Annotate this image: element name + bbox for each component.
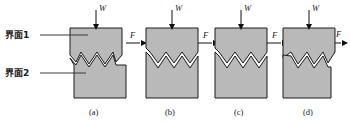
panel-d-lower-block: [283, 55, 331, 98]
panel-a-force-arrow: [126, 40, 147, 46]
panel-c-caption: (c): [234, 107, 244, 117]
panel-c-load-label: W: [244, 3, 252, 13]
panel-d: W F (d): [283, 3, 348, 117]
panel-c: W F (c): [215, 3, 288, 117]
panel-a-load-arrow: [93, 10, 99, 30]
panel-b-load-arrow: [169, 10, 175, 30]
panel-b-upper-block: [146, 28, 198, 63]
panel-a-lower-block: [70, 55, 126, 98]
panel-a: W F (a): [70, 3, 147, 117]
panel-a-force-label: F: [129, 30, 136, 40]
panel-d-caption: (d): [303, 107, 313, 117]
panel-d-load-arrow: [306, 10, 312, 30]
panel-b: W F (b): [146, 3, 219, 117]
panel-d-load-label: W: [312, 3, 320, 13]
panel-d-force-arrow: [335, 40, 348, 46]
panel-d-force-label: F: [335, 29, 342, 39]
panel-c-force-label: F: [271, 30, 278, 40]
panel-a-caption: (a): [89, 107, 99, 117]
panel-b-load-label: W: [175, 3, 183, 13]
interface-1-label: 界面1: [5, 30, 29, 40]
panel-b-caption: (b): [165, 107, 175, 117]
interface-shear-figure: W F (a) W F (b) W: [0, 0, 350, 124]
panel-c-load-arrow: [238, 10, 244, 30]
panel-b-force-label: F: [202, 30, 209, 40]
panel-a-load-label: W: [99, 3, 107, 13]
interface-2-label: 界面2: [5, 68, 29, 78]
panel-c-upper-block: [215, 28, 267, 63]
